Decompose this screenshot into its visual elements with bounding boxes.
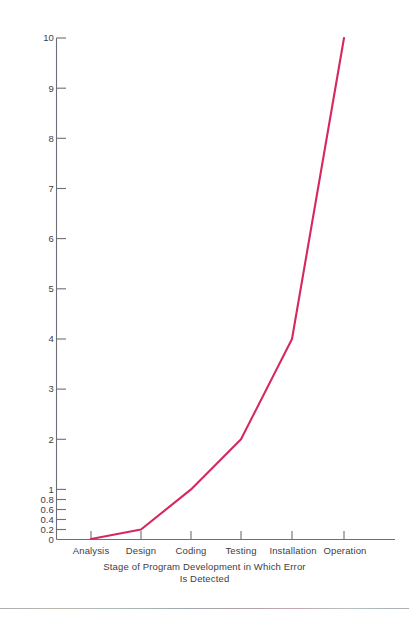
x-axis-title-line-1: Stage of Program Development in Which Er… <box>0 561 409 573</box>
x-tick-label-installation: Installation <box>269 545 316 556</box>
x-tick-label-analysis: Analysis <box>73 545 110 556</box>
page-bottom-rule <box>0 608 409 609</box>
x-tick-label-operation: Operation <box>323 545 366 556</box>
x-tick-label-coding: Coding <box>175 545 206 556</box>
x-tick-label-testing: Testing <box>225 545 256 556</box>
x-tick-label-design: Design <box>126 545 156 556</box>
x-axis-labels: Analysis Design Coding Testing Installat… <box>0 0 409 618</box>
x-axis-title: Stage of Program Development in Which Er… <box>0 561 409 585</box>
chart-figure: 10 9 8 7 6 5 4 3 2 1 0.8 0.6 0.4 0.2 0 A… <box>0 0 409 618</box>
x-axis-title-line-2: Is Detected <box>0 573 409 585</box>
